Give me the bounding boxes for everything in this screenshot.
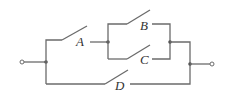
bc-left-wire [108, 24, 127, 59]
switch-d-label: D [114, 78, 125, 93]
switch-b-label: B [140, 18, 148, 33]
right-wire [130, 42, 190, 84]
bc-right-wire [152, 24, 170, 59]
input-terminal [20, 60, 24, 64]
left-vertical-wire [46, 40, 62, 84]
output-terminal [210, 62, 214, 66]
switch-c-label: C [140, 52, 149, 67]
switch-a-label: A [75, 34, 84, 49]
circuit-diagram: A B C D [0, 0, 227, 93]
